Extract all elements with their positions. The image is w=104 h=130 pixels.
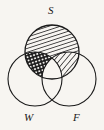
venn-diagram-figure: S W F <box>0 0 104 130</box>
set-label-s: S <box>48 5 54 16</box>
venn-diagram-svg <box>0 0 104 130</box>
set-label-w: W <box>24 112 33 123</box>
set-label-f: F <box>73 112 80 123</box>
